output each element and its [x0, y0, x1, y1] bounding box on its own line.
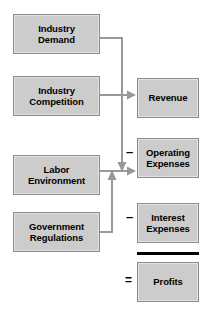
node-operating-expenses-label: Operating Expenses — [146, 147, 190, 170]
node-revenue-label: Revenue — [149, 92, 188, 104]
profit-drivers-diagram: Industry Demand Industry Competition Lab… — [0, 0, 209, 319]
operator-equals-profits: = — [125, 274, 132, 287]
node-industry-demand: Industry Demand — [13, 14, 100, 54]
node-industry-competition: Industry Competition — [13, 76, 100, 116]
node-interest-expenses-label: Interest Expenses — [146, 212, 190, 235]
node-operating-expenses: Operating Expenses — [137, 138, 199, 178]
node-labor-environment: Labor Environment — [13, 155, 100, 195]
connector-industry-demand — [100, 38, 122, 163]
node-profits-label: Profits — [153, 276, 182, 288]
node-industry-demand-label: Industry Demand — [38, 23, 75, 46]
node-labor-environment-label: Labor Environment — [28, 164, 85, 187]
node-revenue: Revenue — [137, 78, 199, 118]
node-interest-expenses: Interest Expenses — [137, 203, 199, 243]
node-government-regulations: Government Regulations — [13, 212, 100, 252]
connector-government-regulations — [100, 179, 112, 232]
node-profits: Profits — [137, 262, 199, 302]
arrowhead-right-operating-icon — [127, 167, 136, 176]
operator-minus-interest-expenses: – — [126, 210, 133, 223]
arrowhead-right-revenue-icon — [127, 91, 136, 100]
node-government-regulations-label: Government Regulations — [29, 221, 84, 244]
operator-minus-operating-expenses: – — [126, 145, 133, 158]
total-divider-rule — [137, 252, 199, 255]
node-industry-competition-label: Industry Competition — [29, 85, 83, 108]
